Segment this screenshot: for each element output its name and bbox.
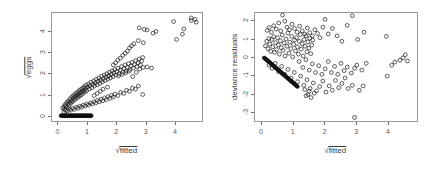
data-point [189,16,193,20]
data-point [390,63,394,67]
y-tick-label: 2 [39,71,46,75]
x-axis-label-right: fitted [325,146,346,155]
data-point [293,27,297,31]
x-tick-label: 1 [85,128,89,135]
data-point [385,74,389,78]
y-tick [48,52,51,53]
data-point [182,27,186,31]
data-point [384,34,388,38]
data-point [294,49,298,53]
data-point [141,66,145,70]
data-point [298,24,302,28]
data-point [309,96,313,100]
data-point [350,14,354,18]
data-point [324,90,328,94]
data-point [267,26,271,30]
data-point [140,59,144,63]
data-point [406,59,410,63]
y-tick-label: -3 [242,109,249,115]
data-point [313,28,317,32]
data-point [89,114,93,118]
x-tick [293,122,294,125]
data-point [284,37,288,41]
data-point [303,44,307,48]
data-point [360,68,364,72]
data-point [306,40,310,44]
data-point [265,28,269,32]
data-point [269,50,273,54]
y-tick-label: -1 [242,72,249,78]
data-point [286,67,290,71]
data-point [282,41,286,45]
y-axis-label-left: eggs [24,56,33,77]
data-point [114,61,118,65]
y-tick-label: 1 [242,37,249,41]
data-point [340,39,344,43]
data-point [277,52,281,56]
data-point [302,38,306,42]
data-point [353,116,357,120]
data-point [287,51,291,55]
data-point [323,67,327,71]
data-point [349,71,353,75]
y-tick [48,31,51,32]
y-tick-label: 4 [39,29,46,33]
y-tick [251,75,254,76]
data-point [357,88,361,92]
y-tick-label: -2 [242,90,249,96]
data-point [307,46,311,50]
data-point [403,53,407,57]
data-point [350,83,354,87]
data-point [364,61,368,65]
data-point [281,49,285,53]
data-point [296,85,300,89]
data-point [136,39,140,43]
y-tick [251,94,254,95]
data-point [340,82,344,86]
x-tick-label: 4 [173,128,177,135]
data-point [92,94,96,98]
data-point [334,78,338,82]
data-point [150,66,154,70]
data-point [345,23,349,27]
x-tick-label: 2 [114,128,118,135]
data-point [307,68,311,72]
y-tick [48,73,51,74]
y-tick-label: 3 [39,50,46,54]
x-tick-label: 2 [322,128,326,135]
data-point [330,27,334,31]
data-point [154,30,158,34]
data-point [295,30,299,34]
data-point [339,61,343,65]
x-tick [261,122,262,125]
deviance-residuals-label: deviance residuals [230,34,239,100]
figure-root: 0123401234 fitted eggs 01234210-1-2-3 fi… [0,0,432,171]
x-tick-label: 0 [259,128,263,135]
x-tick [57,122,58,125]
x-tick-label: 0 [56,128,60,135]
data-point [355,63,359,67]
x-tick-label: 1 [291,128,295,135]
data-point [320,72,324,76]
data-point [346,87,350,91]
y-tick [251,57,254,58]
data-point [305,26,309,30]
data-point [303,88,307,92]
y-tick [251,20,254,21]
data-point [123,51,127,55]
data-point [275,48,279,52]
data-point [126,49,130,53]
data-point [106,85,110,89]
data-point [301,54,305,58]
data-point [297,60,301,64]
plot-panel-left: 0123401234 fitted eggs [0,0,216,171]
data-point [330,71,334,75]
x-tick [87,122,88,125]
data-point [343,76,347,80]
y-tick-label: 1 [39,93,46,97]
y-tick [48,95,51,96]
data-point [288,40,292,44]
data-point [277,21,281,25]
data-point [281,13,285,17]
data-point [342,69,346,73]
